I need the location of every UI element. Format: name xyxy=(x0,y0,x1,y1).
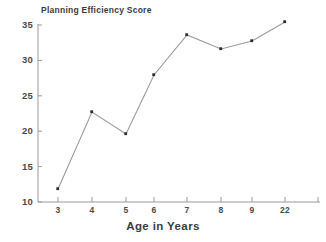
x-tick-label-22: 22 xyxy=(275,205,295,215)
data-point-marker xyxy=(56,187,59,190)
x-tick-label-6: 6 xyxy=(144,205,164,215)
y-tick-label-10: 10 xyxy=(13,196,33,207)
x-tick-label-9: 9 xyxy=(242,205,262,215)
data-point-marker xyxy=(250,39,253,42)
x-tick-label-4: 4 xyxy=(82,205,102,215)
y-axis-ticks xyxy=(38,25,42,202)
data-point-marker xyxy=(152,73,155,76)
x-tick-label-5: 5 xyxy=(116,205,136,215)
data-series-line xyxy=(58,22,285,189)
data-point-markers xyxy=(56,20,286,190)
x-tick-label-3: 3 xyxy=(48,205,68,215)
y-tick-label-25: 25 xyxy=(13,90,33,101)
x-tick-label-8: 8 xyxy=(211,205,231,215)
chart-container: Planning Efficiency Score xyxy=(0,0,326,242)
x-axis-ticks xyxy=(58,197,318,202)
y-tick-label-30: 30 xyxy=(13,54,33,65)
data-point-marker xyxy=(90,110,93,113)
data-point-marker xyxy=(185,33,188,36)
data-point-marker xyxy=(283,20,286,23)
y-tick-label-15: 15 xyxy=(13,161,33,172)
y-tick-label-35: 35 xyxy=(13,19,33,30)
data-point-marker xyxy=(124,132,127,135)
data-point-marker xyxy=(219,47,222,50)
x-tick-label-7: 7 xyxy=(177,205,197,215)
y-tick-label-20: 20 xyxy=(13,125,33,136)
x-axis-title: Age in Years xyxy=(0,220,326,232)
